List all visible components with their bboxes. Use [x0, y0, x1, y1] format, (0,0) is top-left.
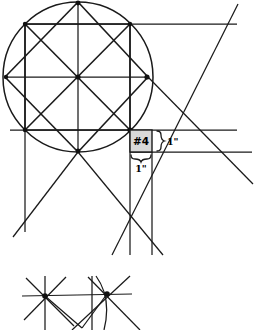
long-diagonal-lower-right [78, 152, 163, 255]
node-corner-nw [23, 22, 27, 26]
long-diagonal-lower-left [13, 152, 78, 237]
horizontal-dimension: 1" [131, 155, 151, 174]
node-top [76, 1, 81, 6]
lower-star-left [24, 276, 74, 330]
horizontal-dimension-label: 1" [135, 163, 147, 174]
node-corner-ne [128, 22, 132, 26]
node-center [75, 74, 80, 79]
lower-construction-figure [0, 268, 257, 330]
vee-left-leg [45, 296, 82, 328]
star-left-diagonal-nw-se [26, 278, 74, 326]
star-right-diagonal-nw-se [88, 277, 140, 330]
upper-construction-figure: #4 1" 1" [0, 0, 257, 260]
node-left [4, 75, 8, 79]
lower-vee [45, 294, 107, 328]
node-bottom [76, 149, 81, 154]
lower-node-right [104, 291, 110, 297]
vertical-dimension: 1" [157, 131, 179, 151]
horizontal-brace-icon [131, 155, 151, 162]
node-corner-sw [23, 128, 27, 132]
vertical-brace-icon [157, 131, 165, 151]
vertical-dimension-label: 1" [167, 136, 179, 147]
callout-label-4: #4 [133, 135, 149, 147]
lower-node-left [42, 293, 48, 299]
vee-right-leg [82, 294, 107, 328]
lower-connector-line [22, 294, 132, 296]
node-right [144, 74, 149, 79]
